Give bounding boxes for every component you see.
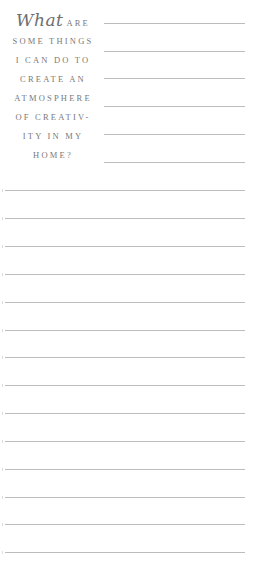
line-tick [2, 189, 3, 192]
writing-line-full[interactable] [5, 385, 245, 386]
writing-line-full[interactable] [5, 413, 245, 414]
line-tick [2, 440, 3, 443]
writing-line-full[interactable] [5, 469, 245, 470]
line-tick [2, 245, 3, 248]
prompt-line-2: SOME THINGS [0, 32, 106, 51]
writing-line-full[interactable] [5, 330, 245, 331]
writing-line-full[interactable] [5, 441, 245, 442]
prompt-line-7: ITY IN MY [0, 127, 106, 146]
writing-line-full[interactable] [5, 246, 245, 247]
journal-prompt: WhatARE SOME THINGS I CAN DO TO CREATE A… [0, 8, 106, 165]
prompt-line-6: OF CREATIV- [0, 108, 106, 127]
writing-line-full[interactable] [5, 552, 245, 553]
line-tick [2, 329, 3, 332]
prompt-line-8: HOME? [0, 146, 106, 165]
writing-line-short[interactable] [104, 162, 245, 163]
writing-line-full[interactable] [5, 302, 245, 303]
writing-line-full[interactable] [5, 274, 245, 275]
writing-line-full[interactable] [5, 524, 245, 525]
line-tick [2, 356, 3, 359]
line-tick [2, 273, 3, 276]
writing-line-full[interactable] [5, 218, 245, 219]
writing-line-short[interactable] [104, 134, 245, 135]
prompt-script-word: What [16, 10, 63, 30]
writing-line-short[interactable] [104, 23, 245, 24]
writing-line-short[interactable] [104, 78, 245, 79]
writing-line-short[interactable] [104, 51, 245, 52]
writing-line-short[interactable] [104, 106, 245, 107]
line-tick [2, 551, 3, 554]
prompt-line-5: ATMOSPHERE [0, 89, 106, 108]
prompt-line-1: WhatARE [0, 8, 106, 32]
line-tick [2, 468, 3, 471]
line-tick [2, 384, 3, 387]
writing-line-full[interactable] [5, 357, 245, 358]
line-tick [2, 217, 3, 220]
prompt-line-text: ARE [66, 18, 90, 28]
line-tick [2, 496, 3, 499]
prompt-line-4: CREATE AN [0, 70, 106, 89]
writing-line-full[interactable] [5, 497, 245, 498]
writing-line-full[interactable] [5, 190, 245, 191]
line-tick [2, 301, 3, 304]
line-tick [2, 523, 3, 526]
line-tick [2, 412, 3, 415]
prompt-line-3: I CAN DO TO [0, 51, 106, 70]
